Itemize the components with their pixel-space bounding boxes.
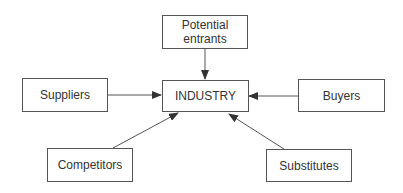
node-substitutes: Substitutes xyxy=(266,149,352,182)
node-label-line2: entrants xyxy=(183,32,226,46)
node-label: Competitors xyxy=(58,158,123,172)
node-industry: INDUSTRY xyxy=(162,80,249,112)
node-label: Substitutes xyxy=(279,159,338,173)
node-potential-entrants: Potential entrants xyxy=(162,15,248,49)
arrow-competitors-to-industry xyxy=(113,113,178,148)
node-label-line1: Potential xyxy=(182,18,229,32)
node-suppliers: Suppliers xyxy=(22,78,108,112)
node-competitors: Competitors xyxy=(47,148,133,182)
node-buyers: Buyers xyxy=(298,79,385,112)
arrow-substitutes-to-industry xyxy=(229,114,284,149)
node-label: Suppliers xyxy=(40,88,90,102)
node-label: INDUSTRY xyxy=(175,89,236,103)
node-label: Buyers xyxy=(323,89,360,103)
